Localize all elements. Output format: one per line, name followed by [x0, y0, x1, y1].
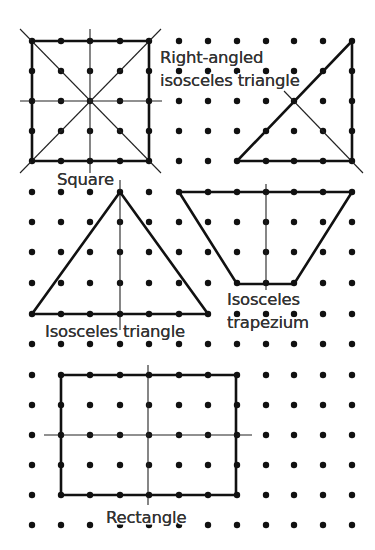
grid-dot	[87, 462, 93, 468]
grid-dot	[320, 249, 326, 255]
grid-dot	[205, 522, 211, 528]
grid-dot	[176, 128, 182, 134]
grid-dot	[320, 280, 326, 286]
grid-dot	[29, 219, 35, 225]
grid-dot	[234, 522, 240, 528]
grid-dot	[291, 432, 297, 438]
symmetry-diagram: SquareSquareRight-angledRight-angledisos…	[0, 0, 375, 550]
grid-dot	[291, 38, 297, 44]
dot-grid	[29, 38, 355, 528]
grid-dot	[349, 432, 355, 438]
shape-labels: SquareSquareRight-angledRight-angledisos…	[45, 48, 309, 527]
right-angled-isosceles-triangle-label: Right-angled	[160, 48, 263, 67]
grid-dot	[320, 219, 326, 225]
grid-dot	[320, 372, 326, 378]
grid-dot	[349, 492, 355, 498]
grid-dot	[146, 219, 152, 225]
grid-dot	[320, 522, 326, 528]
grid-dot	[29, 249, 35, 255]
grid-dot	[291, 522, 297, 528]
grid-dot	[320, 341, 326, 347]
grid-dot	[349, 280, 355, 286]
grid-dot	[349, 341, 355, 347]
grid-dot	[205, 219, 211, 225]
grid-dot	[205, 128, 211, 134]
grid-dot	[320, 492, 326, 498]
grid-dot	[349, 311, 355, 317]
grid-dot	[87, 219, 93, 225]
grid-dot	[291, 402, 297, 408]
grid-dot	[58, 189, 64, 195]
isosceles-trapezium-label: trapezium	[227, 313, 309, 332]
grid-dot	[205, 98, 211, 104]
grid-dot	[29, 341, 35, 347]
grid-dot	[205, 158, 211, 164]
square-label: Square	[57, 170, 114, 189]
shapes	[32, 41, 352, 495]
grid-dot	[291, 372, 297, 378]
grid-dot	[263, 372, 269, 378]
grid-dot	[205, 280, 211, 286]
grid-dot	[176, 158, 182, 164]
grid-dot	[263, 38, 269, 44]
grid-dot	[29, 280, 35, 286]
grid-dot	[87, 522, 93, 528]
grid-dot	[205, 249, 211, 255]
rectangle-label: Rectangle	[106, 508, 186, 527]
grid-dot	[291, 219, 297, 225]
grid-dot	[176, 98, 182, 104]
grid-dot	[87, 341, 93, 347]
grid-dot	[234, 38, 240, 44]
grid-dot	[320, 311, 326, 317]
grid-dot	[146, 402, 152, 408]
grid-dot	[58, 341, 64, 347]
symmetry-lines	[20, 29, 363, 505]
grid-dot	[205, 38, 211, 44]
grid-dot	[320, 462, 326, 468]
grid-dot	[117, 402, 123, 408]
grid-dot	[263, 492, 269, 498]
grid-dot	[205, 341, 211, 347]
grid-dot	[291, 249, 297, 255]
grid-dot	[176, 341, 182, 347]
grid-dot	[146, 280, 152, 286]
right-angled-isosceles-triangle-label: isosceles triangle	[160, 71, 300, 90]
grid-dot	[176, 280, 182, 286]
grid-dot	[58, 249, 64, 255]
grid-dot	[176, 38, 182, 44]
grid-dot	[176, 402, 182, 408]
grid-dot	[87, 189, 93, 195]
grid-dot	[87, 280, 93, 286]
grid-dot	[349, 522, 355, 528]
grid-dot	[176, 219, 182, 225]
grid-dot	[58, 280, 64, 286]
grid-dot	[349, 219, 355, 225]
grid-dot	[29, 372, 35, 378]
grid-dot	[117, 462, 123, 468]
grid-dot	[205, 462, 211, 468]
grid-dot	[320, 432, 326, 438]
grid-dot	[234, 249, 240, 255]
grid-dot	[58, 522, 64, 528]
grid-dot	[29, 462, 35, 468]
isosceles-triangle-label: Isosceles triangle	[45, 322, 185, 341]
grid-dot	[29, 522, 35, 528]
grid-dot	[234, 341, 240, 347]
grid-dot	[320, 98, 326, 104]
grid-dot	[205, 402, 211, 408]
grid-dot	[176, 462, 182, 468]
grid-dot	[146, 189, 152, 195]
grid-dot	[176, 249, 182, 255]
grid-dot	[263, 462, 269, 468]
grid-dot	[263, 432, 269, 438]
grid-dot	[29, 402, 35, 408]
grid-dot	[29, 432, 35, 438]
grid-dot	[349, 402, 355, 408]
grid-dot	[263, 341, 269, 347]
grid-dot	[29, 189, 35, 195]
grid-dot	[263, 98, 269, 104]
grid-dot	[291, 128, 297, 134]
grid-dot	[263, 522, 269, 528]
grid-dot	[117, 341, 123, 347]
grid-dot	[146, 249, 152, 255]
